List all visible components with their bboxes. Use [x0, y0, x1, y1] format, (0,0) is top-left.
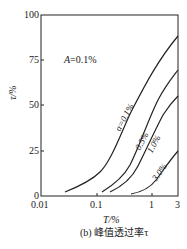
y-axis-label: τ/%	[8, 85, 18, 100]
x-tick-0.01: 0.01	[31, 200, 49, 210]
annotation-value: =0.1%	[70, 54, 96, 65]
x-tick-1: 1	[149, 200, 154, 210]
y-tick-25: 25	[29, 146, 39, 156]
chart-canvas	[0, 0, 187, 249]
y-tick-50: 50	[29, 100, 39, 110]
x-axis-label: T/%	[103, 215, 120, 225]
y-tick-100: 100	[24, 10, 39, 20]
x-tick-3: 3	[175, 200, 180, 210]
annotation: A=0.1%	[64, 55, 97, 65]
y-tick-75: 75	[29, 55, 39, 65]
x-tick-0.1: 0.1	[90, 200, 103, 210]
chart-caption: (b) 峰值透过率τ	[80, 228, 148, 238]
